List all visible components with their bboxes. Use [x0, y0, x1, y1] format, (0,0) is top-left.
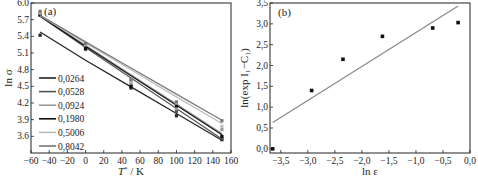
data-point [220, 135, 223, 138]
legend-label: 0,0264 [58, 74, 84, 84]
y-tick-label: 2,5 [256, 40, 268, 50]
x-tick-label: 20 [99, 156, 109, 166]
chart-a-panel-label: (a) [44, 5, 57, 18]
data-point [175, 104, 178, 107]
x-tick-label: 120 [188, 156, 203, 166]
y-tick-label: 0,0 [256, 144, 268, 154]
y-tick-label: 4.2 [17, 98, 29, 108]
y-tick-label: 2,0 [256, 61, 268, 71]
chart-b-x-axis: −3,5−3,0−2,5−2,0−1,5−1,0−0,50,0 [272, 150, 476, 166]
y-tick-label: 5.7 [17, 15, 29, 25]
legend-label: 0,1980 [58, 114, 84, 124]
data-point [220, 119, 223, 122]
data-point [271, 147, 275, 151]
y-tick-label: 3,0 [256, 19, 268, 29]
x-tick-label: −3,5 [272, 156, 289, 166]
data-point [341, 57, 345, 61]
x-tick-label: −1,5 [380, 156, 397, 166]
y-tick-label: 3.9 [17, 115, 29, 125]
x-tick-label: 80 [154, 156, 164, 166]
y-tick-label: 5.4 [17, 31, 29, 41]
x-tick-label: 100 [169, 156, 184, 166]
y-tick-label: 6.0 [17, 0, 29, 8]
y-tick-label: 1,5 [256, 81, 268, 91]
x-tick-label: 160 [224, 156, 239, 166]
x-tick-label: 140 [206, 156, 221, 166]
data-point [456, 21, 460, 25]
chart-b-panel-label: (b) [278, 6, 291, 19]
x-tick-label: −20 [60, 156, 75, 166]
y-tick-label: 3,5 [256, 0, 268, 8]
y-tick-label: 0,5 [256, 123, 268, 133]
chart-a-y-label: ln σ [2, 69, 14, 86]
y-tick-label: 3.6 [17, 131, 29, 141]
data-point [38, 10, 41, 13]
y-tick-label: 4.5 [17, 81, 29, 91]
data-point [175, 100, 178, 103]
data-point [220, 125, 223, 128]
data-point [381, 35, 385, 39]
x-tick-label: −1,0 [407, 156, 424, 166]
fit-line [273, 6, 458, 123]
legend-label: 0,5006 [58, 128, 84, 138]
legend-label: 0,0924 [58, 101, 84, 111]
x-tick-label: −40 [42, 156, 57, 166]
data-point [129, 85, 132, 88]
x-tick-label: −2,5 [326, 156, 343, 166]
data-point [431, 26, 435, 30]
y-tick-label: 5.1 [17, 48, 29, 58]
data-point [175, 110, 178, 113]
chart-b-series [271, 6, 460, 151]
data-point [175, 107, 178, 110]
data-point [310, 89, 314, 93]
chart-b-y-label: ln(exp I₁−C₁) [238, 48, 251, 108]
chart-a: −60−40−20020406080100120140160 3.63.94.2… [2, 0, 238, 177]
data-point [38, 34, 41, 37]
x-tick-label: −3,0 [299, 156, 316, 166]
legend-label: 0,0528 [58, 87, 84, 97]
chart-a-x-label: T* / K [118, 165, 144, 177]
data-point [84, 42, 87, 45]
figure: −60−40−20020406080100120140160 3.63.94.2… [0, 0, 478, 178]
x-tick-label: 0,0 [464, 156, 476, 166]
y-tick-label: 1,0 [256, 102, 268, 112]
chart-b-x-label: ln ε [362, 165, 378, 177]
chart-a-x-axis: −60−40−20020406080100120140160 [24, 150, 239, 166]
x-tick-label: −60 [24, 156, 39, 166]
data-point [129, 78, 132, 81]
x-tick-label: 0 [83, 156, 88, 166]
chart-b-frame [270, 3, 470, 153]
chart-b: −3,5−3,0−2,5−2,0−1,5−1,0−0,50,0 0,00,51,… [238, 0, 476, 177]
x-tick-label: −0,5 [434, 156, 451, 166]
y-tick-label: 4.8 [17, 65, 29, 75]
data-point [129, 82, 132, 85]
chart-a-legend: 0,02640,05280,09240,19800,50060,8042 [39, 74, 84, 152]
legend-label: 0,8042 [58, 142, 84, 152]
data-point [220, 128, 223, 131]
data-point [175, 114, 178, 117]
data-point [84, 47, 87, 50]
